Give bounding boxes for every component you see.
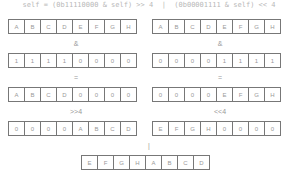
bit-cell: D	[193, 155, 210, 170]
bit-cell: 0	[56, 121, 73, 136]
bit-cell: 0	[168, 87, 185, 102]
result-row: EFGHABCD	[81, 155, 210, 170]
bit-cell: H	[200, 121, 217, 136]
bit-cell: H	[264, 87, 281, 102]
bit-cell: H	[129, 155, 146, 170]
row-1-left: ABCDEFGH	[8, 19, 137, 34]
bit-cell: 0	[8, 121, 25, 136]
bit-cell: F	[232, 19, 249, 34]
bit-cell: F	[97, 155, 114, 170]
bit-cell: 0	[72, 87, 89, 102]
bit-cell: 0	[152, 87, 169, 102]
bit-cell: E	[81, 155, 98, 170]
bit-cell: B	[168, 19, 185, 34]
bit-cell: E	[216, 19, 233, 34]
bit-cell: 0	[104, 53, 121, 68]
bit-cell: D	[56, 87, 73, 102]
bit-cell: 0	[88, 53, 105, 68]
bit-cell: H	[120, 19, 137, 34]
shift-right-operator: >>4	[46, 108, 106, 115]
bit-cell: 0	[216, 121, 233, 136]
row-3-right: 0000EFGH	[152, 87, 281, 102]
bit-cell: 0	[232, 121, 249, 136]
bit-cell: G	[248, 19, 265, 34]
row-1-right: ABCDEFGH	[152, 19, 281, 34]
bit-cell: B	[24, 87, 41, 102]
row-2-left: 11110000	[8, 53, 137, 68]
bit-cell: 1	[56, 53, 73, 68]
bit-cell: H	[264, 19, 281, 34]
bit-cell: 0	[24, 121, 41, 136]
bit-cell: C	[177, 155, 194, 170]
bit-cell: 1	[24, 53, 41, 68]
bit-cell: 0	[120, 53, 137, 68]
bit-cell: F	[168, 121, 185, 136]
bit-cell: A	[8, 19, 25, 34]
row-3-left: ABCD0000	[8, 87, 137, 102]
bit-cell: A	[152, 19, 169, 34]
bit-cell: 0	[200, 53, 217, 68]
or-operator: |	[119, 142, 179, 149]
bit-cell: C	[184, 19, 201, 34]
bit-cell: F	[88, 19, 105, 34]
bit-cell: B	[24, 19, 41, 34]
bit-cell: G	[104, 19, 121, 34]
bit-cell: 0	[72, 53, 89, 68]
bit-cell: E	[152, 121, 169, 136]
bit-cell: A	[145, 155, 162, 170]
bit-cell: 1	[232, 53, 249, 68]
bit-cell: 0	[248, 121, 265, 136]
bit-cell: 0	[40, 121, 57, 136]
bit-cell: 0	[184, 87, 201, 102]
bit-cell: G	[113, 155, 130, 170]
bit-cell: 1	[248, 53, 265, 68]
bit-cell: E	[72, 19, 89, 34]
bit-cell: 0	[104, 87, 121, 102]
row-4-left: 0000ABCD	[8, 121, 137, 136]
bit-cell: G	[184, 121, 201, 136]
row-2-right: 00001111	[152, 53, 281, 68]
bit-cell: 1	[264, 53, 281, 68]
bit-cell: B	[161, 155, 178, 170]
bit-cell: C	[40, 87, 57, 102]
bit-cell: 1	[8, 53, 25, 68]
equals-operator-right: =	[190, 74, 250, 81]
bit-cell: A	[8, 87, 25, 102]
bit-cell: D	[120, 121, 137, 136]
bit-cell: D	[56, 19, 73, 34]
row-4-right: EFGH0000	[152, 121, 281, 136]
bit-cell: 0	[88, 87, 105, 102]
bit-cell: G	[248, 87, 265, 102]
bit-cell: E	[216, 87, 233, 102]
bit-cell: 0	[264, 121, 281, 136]
bit-cell: 0	[120, 87, 137, 102]
shift-left-operator: <<4	[190, 108, 250, 115]
bit-cell: 0	[200, 87, 217, 102]
bit-cell: D	[200, 19, 217, 34]
bit-cell: 1	[40, 53, 57, 68]
bit-cell: A	[72, 121, 89, 136]
bit-cell: 1	[216, 53, 233, 68]
bit-cell: C	[40, 19, 57, 34]
bit-cell: 0	[152, 53, 169, 68]
bit-cell: B	[88, 121, 105, 136]
bit-cell: 0	[168, 53, 185, 68]
and-operator-left: &	[46, 40, 106, 47]
bit-cell: C	[104, 121, 121, 136]
bit-cell: F	[232, 87, 249, 102]
expression-title: self = (0b11110000 & self) >> 4 | (0b000…	[0, 1, 298, 9]
equals-operator-left: =	[46, 74, 106, 81]
and-operator-right: &	[190, 40, 250, 47]
bit-cell: 0	[184, 53, 201, 68]
